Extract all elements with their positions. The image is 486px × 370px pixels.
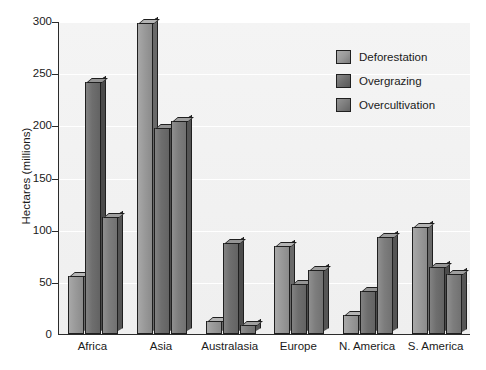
y-axis-tick-label: 150 [22,173,52,185]
y-axis-tick-mark [52,22,58,23]
bar [85,82,101,334]
bar [68,276,84,334]
bar-side-face [187,115,192,331]
x-axis-tick-label: Asia [150,340,172,352]
y-axis-tick-label: 300 [22,16,52,28]
bar [223,243,239,334]
y-axis-tick-mark [52,126,58,127]
legend-label: Deforestation [359,51,427,63]
bar [274,246,290,334]
y-axis-tick-label: 0 [22,329,52,341]
legend-item: Overgrazing [336,70,466,91]
legend-item: Deforestation [336,46,466,67]
bar [137,23,153,334]
y-axis-tick-label: 50 [22,277,52,289]
bar-front-face [377,237,393,334]
y-axis-tick-label: 100 [22,225,52,237]
bar-side-face [324,264,329,331]
x-axis-tick-label: Australasia [201,340,258,352]
x-axis-tick-label: Africa [78,340,107,352]
bar-side-face [393,231,398,331]
bar [240,325,256,334]
bar [446,274,462,335]
bar-front-face [206,321,222,334]
bar-front-face [274,246,290,334]
bar [308,270,324,334]
bar [206,321,222,334]
bar [102,217,118,334]
bar [291,284,307,334]
bar [360,291,376,334]
bar-front-face [291,284,307,334]
legend-label: Overcultivation [359,99,435,111]
bar [154,128,170,334]
bar-front-face [308,270,324,334]
bar [412,227,428,334]
bar-side-face [118,211,123,331]
y-axis-tick-mark [52,283,58,284]
x-axis-tick-label: Europe [280,340,317,352]
bar-front-face [85,82,101,334]
x-axis-tick-label: S. America [408,340,464,352]
bar-front-face [68,276,84,334]
y-axis-tick-label: 200 [22,120,52,132]
x-axis-tick-labels: AfricaAsiaAustralasiaEuropeN. AmericaS. … [58,340,470,360]
legend-label: Overgrazing [359,75,422,87]
y-axis-tick-mark [52,74,58,75]
legend-swatch [336,74,351,88]
bar-chart: Hectares (millions) 050100150200250300 A… [0,0,486,370]
bar [377,237,393,334]
chart-legend: DeforestationOvergrazingOvercultivation [336,46,466,118]
bar-front-face [446,274,462,335]
y-axis-tick-labels: 050100150200250300 [18,0,52,370]
bar-front-face [102,217,118,334]
bar-front-face [171,121,187,334]
bar-front-face [137,23,153,334]
bar [171,121,187,334]
bar-front-face [223,243,239,334]
legend-item: Overcultivation [336,94,466,115]
y-axis-tick-label: 250 [22,68,52,80]
legend-swatch [336,50,351,64]
x-axis-tick-label: N. America [339,340,395,352]
y-axis-tick-mark [52,231,58,232]
bar-front-face [429,267,445,334]
legend-swatch [336,98,351,112]
bar [343,315,359,334]
bar-front-face [360,291,376,334]
bar-front-face [154,128,170,334]
bar [429,267,445,334]
bar-front-face [343,315,359,334]
y-axis-tick-mark [52,179,58,180]
bar-front-face [240,325,256,334]
bar-side-face [239,237,244,331]
bar-side-face [462,267,467,331]
bar-front-face [412,227,428,334]
